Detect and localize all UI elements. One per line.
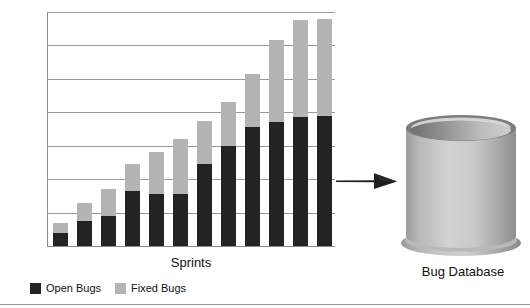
database-cylinder-icon [398, 112, 526, 262]
bar-segment-open-bugs [77, 221, 92, 246]
bar-segment-open-bugs [269, 122, 284, 246]
bar-segment-open-bugs [197, 164, 212, 246]
bar-segment-open-bugs [293, 117, 308, 246]
bar-segment-open-bugs [317, 116, 332, 246]
page-divider [0, 304, 530, 305]
bar-column [317, 19, 332, 246]
bars-layer [47, 12, 335, 246]
bar-column [197, 121, 212, 246]
bar-column [125, 164, 140, 246]
chart-legend: Open BugsFixed Bugs [30, 283, 186, 294]
bar-segment-fixed-bugs [77, 203, 92, 221]
bar-segment-fixed-bugs [245, 74, 260, 127]
bar-column [269, 40, 284, 246]
bar-segment-open-bugs [245, 127, 260, 246]
bar-segment-fixed-bugs [269, 40, 284, 122]
legend-label: Fixed Bugs [131, 283, 186, 294]
bar-column [245, 74, 260, 246]
legend-swatch-icon [115, 283, 126, 294]
legend-entry: Open Bugs [30, 283, 101, 294]
x-axis-title: Sprints [47, 255, 335, 270]
bar-column [101, 189, 116, 246]
bar-column [53, 223, 68, 246]
bar-segment-fixed-bugs [173, 139, 188, 194]
bar-segment-fixed-bugs [197, 121, 212, 164]
arrow-right-icon [336, 168, 398, 194]
bar-column [77, 203, 92, 246]
bar-segment-fixed-bugs [149, 152, 164, 194]
legend-label: Open Bugs [46, 283, 101, 294]
gridline [47, 246, 335, 247]
stacked-bar-chart: 70.060.050.040.030.020.010.00.0 Sprints … [0, 0, 340, 308]
bar-column [293, 20, 308, 246]
bug-tracking-figure: 70.060.050.040.030.020.010.00.0 Sprints … [0, 0, 530, 308]
bar-column [173, 139, 188, 246]
bar-column [221, 102, 236, 246]
database-label: Bug Database [390, 264, 530, 279]
bar-segment-open-bugs [125, 191, 140, 246]
bar-segment-fixed-bugs [53, 223, 68, 233]
bar-segment-fixed-bugs [221, 102, 236, 145]
bar-segment-open-bugs [149, 194, 164, 246]
bar-column [149, 152, 164, 246]
bar-segment-open-bugs [221, 146, 236, 246]
legend-entry: Fixed Bugs [115, 283, 186, 294]
legend-swatch-icon [30, 283, 41, 294]
bar-segment-open-bugs [53, 233, 68, 246]
bar-segment-open-bugs [101, 216, 116, 246]
bar-segment-fixed-bugs [317, 19, 332, 116]
bar-segment-fixed-bugs [125, 164, 140, 191]
bar-segment-fixed-bugs [293, 20, 308, 117]
bar-segment-open-bugs [173, 194, 188, 246]
bar-segment-fixed-bugs [101, 189, 116, 216]
